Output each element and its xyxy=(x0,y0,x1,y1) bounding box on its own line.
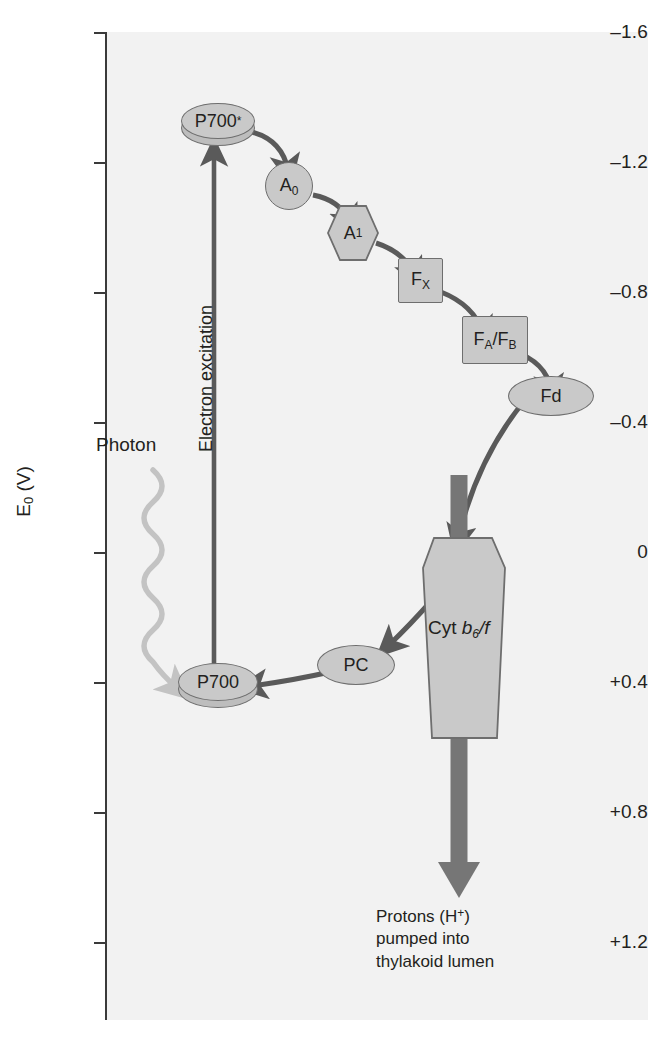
disc-top: P700* xyxy=(181,103,255,139)
node-a0[interactable]: A0 xyxy=(265,162,313,210)
cyt-complex-shape-layer xyxy=(0,0,648,1043)
proton-label-line1: Protons (H+) xyxy=(376,906,494,928)
node-p700[interactable]: P700 xyxy=(178,663,258,701)
photon-label: Photon xyxy=(96,434,156,456)
node-a1[interactable]: A1 xyxy=(327,205,379,261)
node-p700-star[interactable]: P700* xyxy=(181,103,255,139)
disc-top: P700 xyxy=(178,663,258,701)
node-fd[interactable]: Fd xyxy=(508,376,594,416)
node-pc[interactable]: PC xyxy=(317,645,395,685)
figure-canvas: –1.6 –1.2 –0.8 –0.4 0 +0.4 +0.8 +1.2 E0 … xyxy=(0,0,648,1043)
proton-label-line2: pumped into xyxy=(376,928,494,950)
electron-excitation-label: Electron excitation xyxy=(196,305,217,452)
node-fa-fb[interactable]: FA/FB xyxy=(462,316,528,364)
proton-pumping-label: Protons (H+) pumped into thylakoid lumen xyxy=(376,906,494,973)
node-fx[interactable]: FX xyxy=(398,258,443,303)
proton-label-line3: thylakoid lumen xyxy=(376,951,494,973)
cyt-b6f-label: Cyt b6/f xyxy=(428,617,490,641)
